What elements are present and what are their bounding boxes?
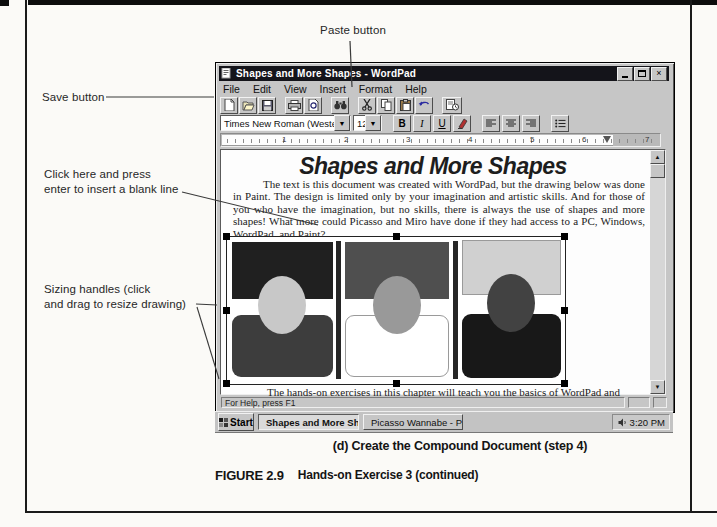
sizing-handle-top-left[interactable]: [223, 233, 230, 240]
date-time-button[interactable]: [442, 97, 462, 114]
scrollbar-thumb[interactable]: [650, 164, 665, 178]
windows-flag-icon: [219, 418, 228, 427]
chevron-down-icon[interactable]: ▼: [334, 115, 350, 131]
align-center-button[interactable]: [502, 115, 520, 132]
ruler-number: 4: [468, 135, 472, 144]
page-frame-bottom: [25, 511, 717, 513]
align-right-button[interactable]: [522, 115, 540, 132]
print-preview-button[interactable]: [304, 97, 322, 114]
panel1-ellipse: [258, 276, 306, 334]
menu-view[interactable]: View: [284, 83, 307, 95]
menu-edit[interactable]: Edit: [253, 83, 271, 95]
bold-button[interactable]: B: [393, 115, 411, 132]
format-bar: Times New Roman (Western) ▼ 12 ▼ B I U: [220, 114, 668, 132]
start-button[interactable]: Start: [218, 413, 254, 431]
embedded-drawing[interactable]: [226, 236, 566, 385]
sizing-handles-callout-line1: Sizing handles (click: [44, 282, 209, 297]
panel3-ellipse: [487, 274, 535, 332]
font-name-combo[interactable]: Times New Roman (Western) ▼: [220, 115, 351, 131]
task-label: Picasso Wannabe - Paint: [371, 417, 463, 428]
document-area[interactable]: Shapes and More Shapes The text is this …: [220, 149, 666, 395]
save-button[interactable]: [258, 97, 276, 114]
status-bar: For Help, press F1: [219, 396, 669, 409]
align-right-icon: [526, 119, 536, 128]
document-paragraph: The text is this document was created wi…: [233, 178, 645, 240]
maximize-icon: [638, 70, 646, 77]
bullets-button[interactable]: [551, 115, 569, 132]
close-button[interactable]: ×: [651, 67, 667, 81]
sizing-handle-top-center[interactable]: [393, 233, 400, 240]
scroll-up-icon: ▲: [655, 154, 661, 160]
minimize-icon: [622, 76, 628, 78]
font-size-combo[interactable]: 12 ▼: [353, 115, 382, 131]
find-button[interactable]: [331, 97, 349, 114]
cut-scissors-icon: [362, 99, 372, 111]
window-title: Shapes and More Shapes - WordPad: [236, 68, 416, 79]
sizing-handle-middle-left[interactable]: [223, 307, 230, 314]
panel-divider: [336, 241, 341, 379]
vertical-scrollbar[interactable]: ▲ ▼: [650, 150, 665, 394]
save-floppy-icon: [262, 100, 273, 111]
sizing-handle-bottom-right[interactable]: [561, 380, 568, 387]
menu-insert[interactable]: Insert: [320, 83, 346, 95]
task-label: Shapes and More Sh...: [266, 417, 359, 428]
align-left-button[interactable]: [482, 115, 500, 132]
wordpad-app-icon: [221, 68, 232, 79]
sizing-handles-callout-line2: and drag to resize drawing): [44, 297, 209, 312]
print-preview-icon: [308, 99, 319, 111]
minimize-button[interactable]: [617, 67, 633, 81]
ruler[interactable]: 1 2 3 4 5 6 7: [220, 133, 661, 147]
copy-button[interactable]: [377, 97, 395, 114]
system-tray[interactable]: 3:20 PM: [612, 414, 670, 430]
page-frame-corner: [0, 0, 9, 6]
cut-button[interactable]: [358, 97, 376, 114]
menu-format[interactable]: Format: [359, 83, 392, 95]
sizing-handles-callout: Sizing handles (click and drag to resize…: [44, 282, 209, 312]
open-button[interactable]: [239, 97, 257, 114]
date-time-icon: [446, 99, 459, 111]
scroll-up-button[interactable]: ▲: [650, 150, 665, 164]
figure-caption: FIGURE 2.9 Hands-on Exercise 3 (continue…: [215, 468, 635, 483]
sizing-handle-bottom-left[interactable]: [223, 380, 230, 387]
save-button-callout: Save button: [42, 90, 112, 105]
undo-button[interactable]: [415, 97, 433, 114]
figure-title: Hands-on Exercise 3 (continued): [298, 468, 479, 483]
click-here-callout-line1: Click here and press: [44, 167, 204, 182]
new-button[interactable]: [220, 97, 238, 114]
document-heading: Shapes and More Shapes: [221, 153, 645, 180]
scroll-down-button[interactable]: ▼: [650, 380, 665, 394]
ruler-ticks: [227, 139, 655, 143]
ruler-number: 2: [344, 135, 348, 144]
italic-button[interactable]: I: [413, 115, 431, 132]
page-frame-top: [28, 0, 717, 5]
sizing-handle-top-right[interactable]: [561, 233, 568, 240]
scrollbar-track[interactable]: [650, 178, 665, 380]
ruler-number: 5: [530, 135, 534, 144]
underline-button[interactable]: U: [433, 115, 451, 132]
scroll-down-icon: ▼: [655, 384, 661, 390]
maximize-button[interactable]: [634, 67, 650, 81]
sizing-handle-bottom-center[interactable]: [393, 380, 400, 387]
font-color-button[interactable]: [453, 115, 471, 132]
ruler-number: 1: [282, 135, 286, 144]
taskbar-task-paint[interactable]: Picasso Wannabe - Paint: [363, 414, 463, 430]
font-color-icon: [457, 118, 468, 129]
wordpad-window: Shapes and More Shapes - WordPad × File …: [215, 62, 675, 413]
margin-marker[interactable]: [603, 136, 611, 143]
title-bar[interactable]: Shapes and More Shapes - WordPad ×: [219, 66, 669, 81]
chevron-down-icon[interactable]: ▼: [365, 115, 381, 131]
resize-grip[interactable]: [653, 397, 667, 408]
ruler-number: 7: [645, 135, 649, 144]
sizing-handle-middle-right[interactable]: [561, 307, 568, 314]
new-document-icon: [224, 99, 235, 111]
menu-file[interactable]: File: [223, 83, 240, 95]
status-message: For Help, press F1: [221, 397, 625, 408]
paste-button[interactable]: [396, 97, 414, 114]
taskbar-task-wordpad[interactable]: Shapes and More Sh...: [258, 414, 359, 430]
menu-bar: File Edit View Insert Format Help: [220, 82, 668, 95]
print-button[interactable]: [285, 97, 303, 114]
panel2-ellipse: [373, 276, 421, 334]
align-left-icon: [486, 119, 496, 128]
start-button-label: Start: [230, 417, 253, 428]
menu-help[interactable]: Help: [405, 83, 427, 95]
